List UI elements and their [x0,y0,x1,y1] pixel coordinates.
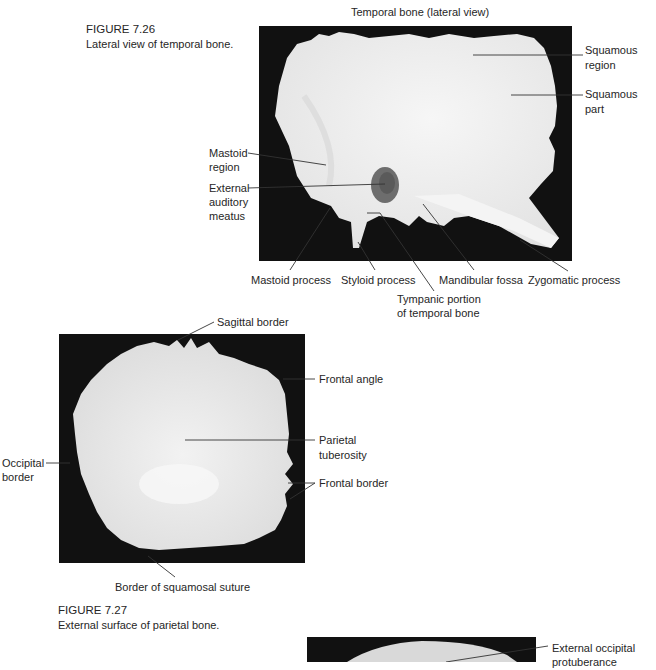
label-occipital-border-line1: Occipital [2,456,44,471]
label-tympanic-portion-line2: of temporal bone [397,306,480,321]
label-squamous-part-line1: Squamous [585,87,638,102]
occipital-bone-image [307,637,536,662]
label-sagittal-border: Sagittal border [217,315,289,330]
label-squamous-region-line1: Squamous [585,43,638,58]
label-mastoid-region-line1: Mastoid [209,146,248,161]
label-eam-line3: meatus [209,209,245,224]
parietal-bone-photo [59,334,305,563]
label-parietal-tuberosity-line1: Parietal [319,433,356,448]
label-external-occipital-protuberance-line2: protuberance [552,655,617,670]
label-zygomatic-process: Zygomatic process [528,273,620,288]
label-tympanic-portion-line1: Tympanic portion [397,292,481,307]
label-frontal-border: Frontal border [319,476,388,491]
label-external-occipital-protuberance-line1: External occipital [552,641,635,656]
label-squamosal-suture-border: Border of squamosal suture [115,580,250,595]
label-eam-line2: auditory [209,195,248,210]
label-mastoid-process: Mastoid process [251,273,331,288]
label-styloid-process: Styloid process [341,273,416,288]
figure-caption: Lateral view of temporal bone. [86,37,233,52]
label-mastoid-region-line2: region [209,160,240,175]
label-mandibular-fossa: Mandibular fossa [439,273,523,288]
figure-number: FIGURE 7.27 [58,603,127,618]
figure-title: Temporal bone (lateral view) [351,5,489,20]
occipital-bone-photo [307,637,536,662]
label-parietal-tuberosity-line2: tuberosity [319,448,367,463]
label-eam-line1: External [209,181,249,196]
figure-caption: External surface of parietal bone. [58,618,219,633]
label-squamous-region-line2: region [585,58,616,73]
label-occipital-border-line2: border [2,470,34,485]
parietal-bone-image [59,334,305,563]
figure-number: FIGURE 7.26 [86,22,155,37]
label-frontal-angle: Frontal angle [319,372,383,387]
label-squamous-part-line2: part [585,102,604,117]
temporal-bone-photo [259,26,572,261]
temporal-bone-image [259,26,572,261]
